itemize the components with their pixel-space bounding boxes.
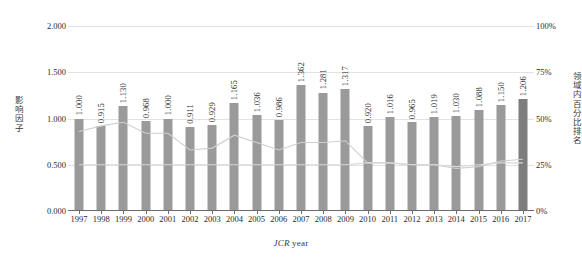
x-axis-tick-mark xyxy=(501,211,502,214)
x-axis-tick-mark xyxy=(190,211,191,214)
y-axis-right-tick-label: 50% xyxy=(536,114,552,124)
x-axis-tick-label: 2012 xyxy=(403,214,420,224)
y-axis-right-tick-label: 75% xyxy=(536,67,552,77)
x-axis-tick-label: 2010 xyxy=(359,214,376,224)
x-axis-tick-label: 2005 xyxy=(248,214,265,224)
x-axis-tick-mark xyxy=(390,211,391,214)
x-axis-tick-label: 2014 xyxy=(448,214,465,224)
x-axis-tick-label: 2017 xyxy=(514,214,531,224)
x-axis-title: JCR year xyxy=(0,238,582,248)
y-axis-left-title: 影响因子 xyxy=(10,96,22,133)
x-axis-tick-label: 2007 xyxy=(293,214,310,224)
bar-value-label: 1.000 xyxy=(163,95,173,115)
x-axis-tick-label: 1999 xyxy=(115,214,132,224)
x-axis-tick-label: 2000 xyxy=(137,214,154,224)
x-axis-tick-mark xyxy=(257,211,258,214)
line-series-layer xyxy=(68,26,534,211)
bar-value-label: 1.362 xyxy=(296,62,306,82)
x-axis-tick-label: 2015 xyxy=(470,214,487,224)
bar-value-label: 0.915 xyxy=(96,103,106,123)
x-axis-tick-label: 2001 xyxy=(159,214,176,224)
y-axis-right-tick-label: 100% xyxy=(536,21,556,31)
y-axis-right-tick-label: 0% xyxy=(536,206,547,216)
x-axis-tick-label: 2011 xyxy=(381,214,398,224)
x-axis-tick-mark xyxy=(523,211,524,214)
line-series xyxy=(79,122,523,168)
x-axis-tick-label: 1998 xyxy=(93,214,110,224)
y-axis-left-tick-label: 0.500 xyxy=(47,160,66,170)
x-axis-tick-label: 2016 xyxy=(492,214,509,224)
x-axis-tick-mark xyxy=(345,211,346,214)
bar-value-label: 1.150 xyxy=(496,82,506,102)
bar-value-label: 1.016 xyxy=(385,94,395,114)
bar-value-label: 1.206 xyxy=(518,76,528,96)
x-axis-tick-label: 2006 xyxy=(270,214,287,224)
bar-value-label: 1.019 xyxy=(429,94,439,114)
x-axis-tick-mark xyxy=(101,211,102,214)
x-axis-tick-label: 2003 xyxy=(204,214,221,224)
line-series xyxy=(79,163,523,167)
x-axis-tick-mark xyxy=(434,211,435,214)
x-axis-tick-mark xyxy=(412,211,413,214)
y-axis-left-tick-label: 0.000 xyxy=(47,206,66,216)
bar-value-label: 0.986 xyxy=(274,97,284,117)
x-axis-tick-label: 2009 xyxy=(337,214,354,224)
x-axis-tick-label: 2013 xyxy=(426,214,443,224)
y-axis-left-tick-label: 1.500 xyxy=(47,67,66,77)
x-axis-title-italic: JCR xyxy=(274,238,290,248)
y-axis-right-tick-label: 25% xyxy=(536,160,552,170)
bar-value-label: 1.130 xyxy=(118,83,128,103)
bar-value-label: 1.317 xyxy=(340,66,350,86)
x-axis-tick-mark xyxy=(146,211,147,214)
bar-value-label: 0.968 xyxy=(141,98,151,118)
bar-value-label: 1.000 xyxy=(74,95,84,115)
x-axis-tick-mark xyxy=(168,211,169,214)
bar-value-label: 1.281 xyxy=(318,69,328,89)
x-axis-tick-mark xyxy=(456,211,457,214)
bar-value-label: 0.929 xyxy=(207,102,217,122)
bar-value-label: 0.965 xyxy=(407,99,417,119)
x-axis-tick-mark xyxy=(279,211,280,214)
x-axis-tick-mark xyxy=(79,211,80,214)
bar-value-label: 1.030 xyxy=(451,93,461,113)
bar-value-label: 0.911 xyxy=(185,104,195,124)
bar-value-label: 1.088 xyxy=(474,87,484,107)
impact-factor-chart: 影响因子 领域内百分比排名 JCR year 0.0000.5001.0001.… xyxy=(0,0,582,257)
x-axis-tick-label: 2004 xyxy=(226,214,243,224)
x-axis-title-rest: year xyxy=(290,238,309,248)
x-axis-tick-mark xyxy=(323,211,324,214)
y-axis-right-title: 领域内百分比排名 xyxy=(568,72,580,146)
bar-value-label: 1.036 xyxy=(252,92,262,112)
x-axis-tick-mark xyxy=(301,211,302,214)
x-axis-tick-label: 1997 xyxy=(71,214,88,224)
x-axis-tick-label: 2008 xyxy=(315,214,332,224)
x-axis-tick-mark xyxy=(479,211,480,214)
bar-value-label: 1.165 xyxy=(229,80,239,100)
y-axis-left-tick-label: 2.000 xyxy=(47,21,66,31)
plot-area: 1.0000.9151.1300.9681.0000.9110.9291.165… xyxy=(68,26,534,211)
x-axis-tick-label: 2002 xyxy=(182,214,199,224)
y-axis-left-tick-label: 1.000 xyxy=(47,114,66,124)
x-axis-tick-mark xyxy=(212,211,213,214)
bar-value-label: 0.920 xyxy=(363,103,373,123)
x-axis-tick-mark xyxy=(368,211,369,214)
x-axis-tick-mark xyxy=(123,211,124,214)
x-axis-tick-mark xyxy=(234,211,235,214)
